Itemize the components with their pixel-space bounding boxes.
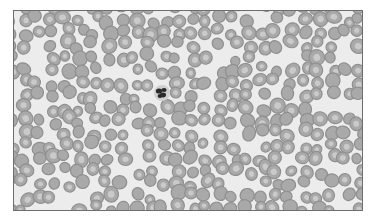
red-blood-cell: [352, 201, 362, 210]
red-blood-cell: [118, 153, 133, 166]
red-blood-cell: [257, 11, 275, 14]
red-blood-cell: [185, 187, 198, 199]
red-blood-cell: [34, 178, 47, 189]
red-blood-cell: [105, 129, 117, 141]
red-blood-cell: [207, 199, 225, 210]
red-blood-cell: [32, 25, 46, 38]
red-blood-cell: [33, 113, 45, 126]
red-blood-cell: [14, 14, 15, 30]
red-blood-cell: [167, 125, 182, 140]
red-blood-cell: [324, 51, 337, 65]
red-blood-cell: [14, 187, 15, 204]
red-blood-cell: [114, 11, 130, 13]
red-blood-cell: [281, 11, 298, 18]
red-blood-cell: [256, 61, 268, 72]
red-blood-cell: [312, 36, 324, 48]
red-blood-cell: [185, 165, 200, 180]
red-blood-cell: [41, 162, 55, 175]
red-blood-cell: [138, 44, 156, 62]
red-blood-cell: [352, 136, 362, 153]
red-blood-cell: [16, 98, 31, 111]
red-blood-cell: [105, 204, 118, 210]
red-blood-cell: [129, 100, 141, 113]
red-blood-cell: [100, 153, 115, 167]
red-blood-cell: [297, 74, 308, 86]
smear-canvas: [14, 11, 362, 210]
red-blood-cell: [325, 139, 336, 149]
red-blood-cell: [60, 50, 70, 61]
nucleus-lobe: [161, 88, 166, 92]
red-blood-cell: [133, 64, 143, 75]
red-blood-cell: [284, 164, 298, 178]
red-blood-cell: [44, 88, 60, 104]
red-blood-cell: [14, 50, 17, 61]
red-blood-cell: [351, 153, 362, 165]
red-blood-cell: [156, 68, 169, 80]
red-blood-cell: [214, 141, 227, 154]
red-blood-cell: [325, 174, 339, 187]
red-blood-cell: [355, 163, 362, 178]
red-blood-cell: [311, 110, 328, 127]
red-blood-cell: [322, 188, 335, 202]
red-blood-cell: [348, 36, 362, 56]
red-blood-cell: [224, 11, 239, 24]
red-blood-cell: [45, 25, 57, 36]
red-blood-cell: [16, 40, 31, 55]
red-blood-cell: [197, 25, 213, 41]
red-blood-cell: [212, 11, 227, 23]
red-blood-cell: [210, 36, 226, 52]
red-blood-cell: [328, 111, 343, 124]
blood-smear-image: [13, 10, 363, 211]
red-blood-cell: [153, 126, 170, 142]
nucleus-lobe: [156, 88, 162, 93]
red-blood-cell: [197, 101, 211, 115]
red-blood-cell: [99, 140, 112, 152]
red-blood-cell: [180, 147, 200, 167]
red-blood-cell: [118, 35, 131, 49]
red-blood-cell: [112, 76, 131, 95]
red-blood-cell: [297, 11, 313, 26]
red-blood-cell: [226, 142, 242, 156]
red-blood-cell: [103, 53, 115, 66]
red-blood-cell: [63, 181, 77, 194]
red-blood-cell: [72, 139, 85, 153]
red-blood-cell: [71, 203, 87, 210]
red-blood-cell: [130, 185, 146, 202]
red-blood-cell: [116, 128, 130, 142]
red-blood-cell: [350, 63, 362, 79]
red-blood-cell: [47, 176, 61, 190]
red-blood-cell: [210, 22, 225, 36]
red-blood-cell: [168, 11, 183, 14]
red-blood-cell: [213, 88, 229, 103]
red-blood-cell: [33, 152, 46, 165]
red-blood-cell: [186, 68, 196, 79]
red-blood-cell: [143, 150, 156, 162]
red-blood-cell: [244, 166, 259, 182]
red-blood-cell: [171, 13, 188, 29]
red-blood-cell: [338, 173, 351, 186]
red-blood-cell: [341, 186, 358, 203]
red-blood-cell: [187, 13, 201, 26]
red-blood-cell: [14, 27, 18, 43]
red-blood-cell: [115, 199, 132, 210]
nucleus-lobe: [158, 94, 163, 98]
red-blood-cell: [257, 86, 273, 101]
red-blood-cell: [351, 87, 362, 100]
red-blood-cell: [197, 112, 213, 128]
white-blood-cell: [154, 85, 170, 101]
red-blood-cell: [200, 15, 210, 27]
red-blood-cell: [141, 80, 153, 92]
red-blood-cell: [199, 201, 210, 210]
red-blood-cell: [182, 24, 200, 41]
red-blood-cell: [42, 38, 58, 53]
